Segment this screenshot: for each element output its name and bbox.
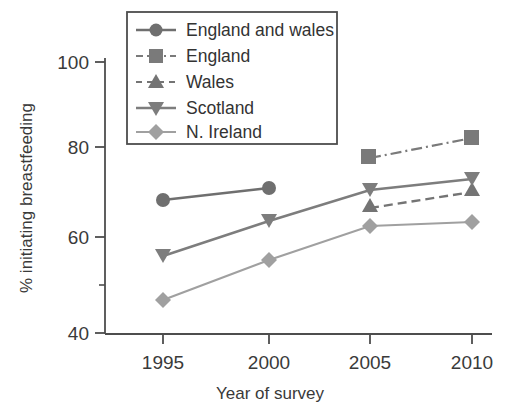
x-axis-title: Year of survey	[216, 384, 325, 403]
circle-marker-icon	[150, 24, 163, 37]
data-point-england-2005	[361, 149, 376, 164]
y-tick-label-100: 100	[57, 52, 89, 73]
legend-label-england: England	[186, 46, 250, 66]
x-axis-ticks	[163, 334, 472, 344]
x-tick-label-2010: 2010	[451, 352, 493, 373]
data-point-n-ireland-2005	[362, 218, 378, 234]
y-tick-label-80: 80	[68, 137, 89, 158]
data-point-wales-2005	[362, 198, 378, 212]
x-tick-label-2005: 2005	[349, 352, 391, 373]
chart-figure: 100 80 60 40 1995 2000 2005 2010 Year of…	[0, 0, 511, 410]
data-point-england-and-wales-1995	[156, 193, 170, 207]
data-point-scotland-1995	[155, 249, 171, 263]
legend-label-england-and-wales: England and wales	[186, 20, 334, 40]
y-tick-labels: 100 80 60 40	[57, 52, 89, 344]
chart-legend: England and wales England Wales Scotland	[127, 12, 337, 144]
data-point-scotland-2000	[261, 214, 277, 228]
y-tick-label-60: 60	[68, 227, 89, 248]
x-tick-label-2000: 2000	[248, 352, 290, 373]
legend-label-wales: Wales	[186, 72, 234, 92]
data-point-n-ireland-2010	[464, 214, 480, 230]
y-tick-label-40: 40	[68, 323, 89, 344]
x-tick-labels: 1995 2000 2005 2010	[142, 352, 493, 373]
series-england	[361, 130, 479, 164]
series-n-ireland	[155, 214, 480, 308]
data-point-england-and-wales-2000	[262, 181, 276, 195]
data-point-n-ireland-2000	[261, 252, 277, 268]
square-marker-icon	[149, 49, 163, 63]
series-england-and-wales	[156, 181, 377, 207]
data-point-england-2010	[464, 130, 479, 145]
chart-svg: 100 80 60 40 1995 2000 2005 2010 Year of…	[0, 0, 511, 410]
y-axis-ticks	[95, 62, 105, 333]
data-point-n-ireland-1995	[155, 292, 171, 308]
series-scotland	[155, 172, 480, 263]
legend-item-england: England	[136, 46, 250, 66]
legend-label-scotland: Scotland	[186, 98, 254, 118]
series-wales	[362, 182, 480, 212]
y-axis-title: % initiating breastfeeding	[17, 103, 36, 293]
x-tick-label-1995: 1995	[142, 352, 184, 373]
legend-label-n-ireland: N. Ireland	[186, 122, 262, 142]
